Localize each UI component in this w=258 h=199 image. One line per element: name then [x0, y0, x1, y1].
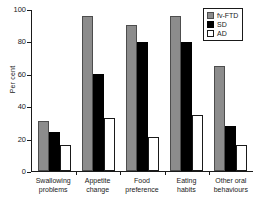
legend-item-sd[interactable]: SD — [207, 21, 238, 28]
bar-sd-0[interactable] — [49, 132, 60, 171]
bar-ad-1[interactable] — [104, 118, 115, 171]
bar-group-2 — [120, 10, 164, 171]
x-tick-4 — [209, 171, 210, 175]
bar-ad-0[interactable] — [60, 145, 71, 171]
legend-item-ad[interactable]: AD — [207, 30, 238, 37]
bar-sd-2[interactable] — [137, 42, 148, 171]
legend-swatch-icon-sd — [207, 21, 214, 28]
x-axis-label-3: Eatinghabits — [164, 176, 208, 194]
y-tick-label-100: 100 — [13, 6, 26, 14]
y-tick-label-0: 0 — [22, 168, 26, 176]
x-tick-2 — [120, 171, 121, 175]
bar-ad-4[interactable] — [236, 145, 247, 171]
bar-sd-4[interactable] — [225, 126, 236, 171]
y-tick-label-80: 80 — [18, 39, 26, 47]
legend: fv-FTD SD AD — [203, 8, 243, 41]
x-axis-label-4: Other oralbehaviours — [209, 176, 253, 194]
y-tick-label-40: 40 — [18, 103, 26, 111]
x-axis-label-0: Swallowingproblems — [31, 176, 75, 194]
legend-swatch-icon-ad — [207, 30, 214, 37]
x-tick-3 — [165, 171, 166, 175]
legend-label-ad: AD — [217, 30, 227, 37]
bar-fv-ftd-2[interactable] — [126, 25, 137, 172]
x-axis-line — [31, 171, 253, 172]
bar-sd-1[interactable] — [93, 74, 104, 171]
bar-fv-ftd-1[interactable] — [82, 16, 93, 171]
bar-ad-3[interactable] — [192, 115, 203, 171]
x-axis-label-1: Appetitechange — [75, 176, 119, 194]
y-axis-title: Per cent — [9, 50, 16, 110]
bar-group-1 — [76, 10, 120, 171]
legend-label-sd: SD — [217, 21, 227, 28]
bar-fv-ftd-3[interactable] — [170, 16, 181, 171]
bar-fv-ftd-4[interactable] — [214, 66, 225, 171]
legend-swatch-icon-fv-ftd — [207, 12, 214, 19]
x-axis-labels: SwallowingproblemsAppetitechangeFoodpref… — [31, 176, 253, 194]
bar-chart: Per cent 0 20 40 60 80 100 Swa — [0, 0, 258, 199]
legend-label-fv-ftd: fv-FTD — [217, 12, 238, 19]
bar-sd-3[interactable] — [181, 42, 192, 171]
bar-group-0 — [32, 10, 76, 171]
y-tick-label-60: 60 — [18, 71, 26, 79]
y-tick-label-20: 20 — [18, 136, 26, 144]
x-axis-label-2: Foodpreference — [120, 176, 164, 194]
bar-ad-2[interactable] — [148, 137, 159, 171]
x-tick-1 — [76, 171, 77, 175]
bar-fv-ftd-0[interactable] — [38, 121, 49, 171]
legend-item-fv-ftd[interactable]: fv-FTD — [207, 12, 238, 19]
